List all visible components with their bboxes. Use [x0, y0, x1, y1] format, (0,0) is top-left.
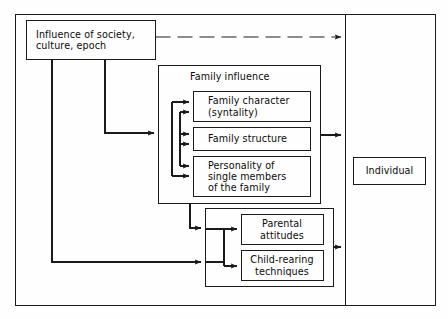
family-character-label: Family character (syntality) [200, 92, 304, 121]
diagram-root: Influence of society, culture, epoch Fam… [0, 0, 448, 319]
society-to-parental-group [52, 60, 201, 263]
family-group-to-parental-group [190, 204, 201, 229]
society-label: Influence of society, culture, epoch [36, 21, 154, 59]
child-rearing-label: Child-rearing techniques [242, 251, 322, 280]
parental-attitudes-label: Parental attitudes [242, 215, 322, 244]
society-to-family-influence [105, 60, 154, 134]
personality-label: Personality of single members of the fam… [200, 157, 304, 196]
individual-label: Individual [354, 158, 425, 184]
family-structure-label: Family structure [200, 128, 304, 150]
family-influence-group-label: Family influence [190, 71, 320, 87]
